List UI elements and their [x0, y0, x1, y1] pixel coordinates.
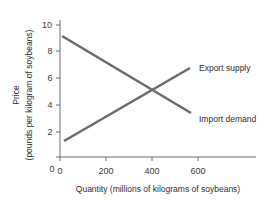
import-demand-label: Import demand — [199, 114, 256, 124]
x-axis-ticks: 0 200 400 600 — [57, 157, 205, 176]
x-tick-label-600: 600 — [190, 166, 205, 176]
y-tick-label-6: 6 — [47, 73, 52, 83]
y-tick-label-0: 0 — [49, 164, 54, 174]
export-supply-line — [64, 68, 190, 141]
x-tick-label-0: 0 — [57, 166, 62, 176]
x-axis-title: Quantity (millions of kilograms of soybe… — [76, 184, 241, 194]
economics-supply-demand-figure: Price (pounds per kilogram of soybeans) … — [0, 0, 268, 203]
y-tick-label-10: 10 — [42, 20, 52, 30]
chart-canvas: Price (pounds per kilogram of soybeans) … — [0, 0, 268, 203]
x-tick-label-200: 200 — [98, 166, 113, 176]
y-axis-title-line2: (pounds per kilogram of soybeans) — [24, 29, 34, 160]
export-supply-label: Export supply — [199, 63, 251, 73]
y-tick-label-4: 4 — [47, 100, 52, 110]
x-tick-label-400: 400 — [144, 166, 159, 176]
y-axis-title-group: Price (pounds per kilogram of soybeans) — [11, 29, 34, 160]
y-axis-title-line1: Price — [11, 85, 21, 105]
import-demand-line — [62, 36, 191, 113]
y-tick-label-8: 8 — [47, 46, 52, 56]
y-axis-ticks: 0 2 4 6 8 10 — [42, 20, 60, 174]
y-tick-label-2: 2 — [47, 127, 52, 137]
